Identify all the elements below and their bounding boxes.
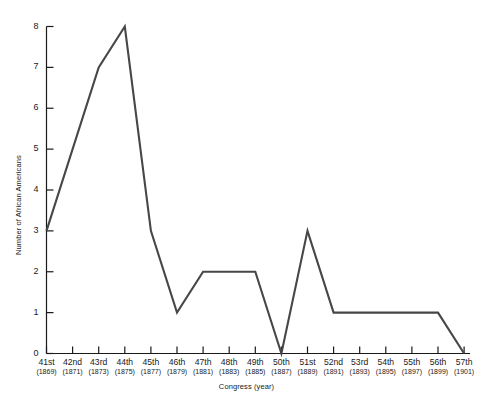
x-axis-title: Congress (year) <box>0 382 493 391</box>
y-tick-label: 5 <box>25 143 39 153</box>
axes <box>47 27 471 354</box>
y-axis-title: Number of African Americans <box>14 155 23 255</box>
data-series-line <box>47 27 465 354</box>
y-tick-label: 3 <box>25 225 39 235</box>
x-tick-label-group: 57th(1901) <box>447 357 481 376</box>
x-tick-year: (1901) <box>447 367 481 376</box>
line-chart: Number of African Americans Congress (ye… <box>0 0 493 417</box>
y-tick-label: 2 <box>25 266 39 276</box>
y-tick-label: 6 <box>25 102 39 112</box>
tick-marks <box>47 27 465 354</box>
plot-area <box>0 0 493 417</box>
y-tick-label: 4 <box>25 184 39 194</box>
y-tick-label: 1 <box>25 307 39 317</box>
x-tick-congress: 57th <box>447 357 481 367</box>
y-tick-label: 7 <box>25 61 39 71</box>
y-tick-label: 8 <box>25 21 39 31</box>
